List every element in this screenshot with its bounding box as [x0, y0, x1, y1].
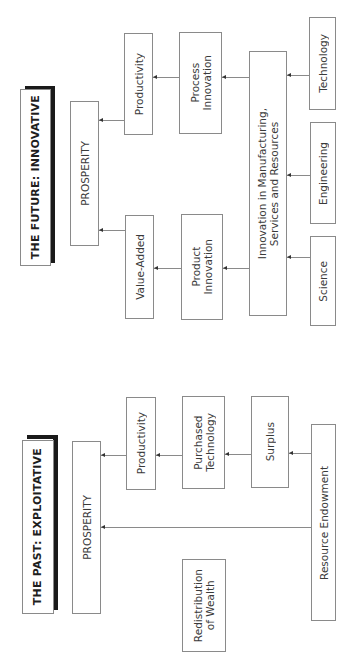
process-innovation-box: Process Innovation [179, 32, 222, 134]
innovation-msr-box: Innovation in Manufacturing, Services an… [249, 51, 287, 316]
arrowhead-icon [154, 266, 158, 270]
arrowhead-icon [287, 73, 291, 77]
future-value-added-label: Value-Added [134, 234, 146, 300]
future-value-added-box: Value-Added [125, 215, 154, 319]
science-label: Science [317, 261, 329, 302]
future-title: THE FUTURE: INNOVATIVE [30, 95, 42, 259]
arrowhead-icon [99, 118, 103, 122]
future-title-box: THE FUTURE: INNOVATIVE [20, 89, 51, 266]
arrowhead-icon [223, 266, 227, 270]
product-innovation-box: Product Innovation [181, 214, 223, 320]
resource-endowment-label: Resource Endowment [318, 466, 330, 580]
future-productivity-box: Productivity [124, 33, 153, 135]
arrowhead-icon [225, 452, 229, 456]
engineering-label: Engineering [317, 142, 329, 205]
engineering-box: Engineering [310, 122, 336, 224]
innovation-msr-label: Innovation in Manufacturing, Services an… [256, 108, 280, 259]
connector-innovation-process [222, 77, 249, 78]
process-innovation-label: Process Innovation [189, 55, 213, 111]
arrowhead-icon [289, 451, 293, 455]
redistribution-box: Redistribution of Wealth [182, 559, 226, 652]
arrowhead-icon [101, 453, 105, 457]
past-title-box: THE PAST: EXPLOITATIVE [22, 440, 54, 614]
past-productivity-label: Productivity [135, 412, 147, 474]
purchased-technology-label: Purchased Technology [192, 413, 216, 472]
past-title-shadow-top [27, 435, 58, 439]
technology-box: Technology [309, 17, 336, 110]
connector-product-valueadded [154, 268, 181, 269]
arrowhead-icon [99, 228, 103, 232]
future-productivity-label: Productivity [133, 53, 145, 115]
product-innovation-label: Product Innovation [190, 239, 214, 295]
past-productivity-box: Productivity [126, 397, 156, 490]
arrowhead-icon [287, 255, 291, 259]
science-box: Science [310, 236, 336, 326]
arrowhead-icon [153, 75, 157, 79]
future-prosperity-box: PROSPERITY [70, 101, 99, 246]
resource-endowment-box: Resource Endowment [311, 424, 336, 621]
future-prosperity-label: PROSPERITY [79, 141, 91, 206]
technology-label: Technology [317, 34, 329, 93]
past-title: THE PAST: EXPLOITATIVE [32, 448, 44, 605]
purchased-technology-box: Purchased Technology [182, 396, 225, 489]
arrowhead-icon [101, 525, 105, 529]
connector-resource-prosperity [101, 527, 311, 528]
surplus-label: Surplus [264, 422, 276, 461]
past-prosperity-label: PROSPERITY [81, 495, 93, 560]
redistribution-label: Redistribution of Wealth [192, 569, 216, 642]
surplus-box: Surplus [251, 396, 289, 488]
arrowhead-icon [222, 75, 226, 79]
arrowhead-icon [156, 453, 160, 457]
past-prosperity-box: PROSPERITY [72, 441, 101, 614]
arrowhead-icon [287, 173, 291, 177]
